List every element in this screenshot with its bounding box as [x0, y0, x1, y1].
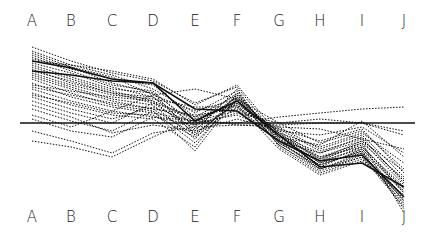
- top-label-g: G: [273, 12, 285, 30]
- bottom-label-a: A: [27, 208, 37, 226]
- top-label-c: C: [107, 12, 117, 30]
- series-line-s15: [32, 83, 404, 177]
- top-label-e: E: [190, 12, 199, 30]
- series-line-s25: [32, 123, 404, 153]
- bottom-axis-labels: ABCDEFGHIJ: [27, 208, 406, 226]
- top-label-i: I: [360, 12, 364, 30]
- bottom-label-g: G: [273, 208, 285, 226]
- bottom-label-h: H: [314, 208, 325, 226]
- bottom-label-b: B: [66, 208, 76, 226]
- series-line-s23: [32, 89, 404, 135]
- profile-chart: ABCDEFGHIJ ABCDEFGHIJ: [0, 0, 435, 244]
- bottom-label-i: I: [360, 208, 364, 226]
- series-line-s10: [32, 69, 404, 195]
- bottom-label-d: D: [147, 208, 159, 226]
- top-axis-labels: ABCDEFGHIJ: [27, 12, 406, 30]
- top-label-h: H: [314, 12, 325, 30]
- top-label-a: A: [27, 12, 37, 30]
- series-line-s21: [32, 105, 404, 173]
- top-label-d: D: [147, 12, 159, 30]
- bottom-label-c: C: [107, 208, 117, 226]
- bottom-label-e: E: [190, 208, 199, 226]
- bottom-label-j: J: [402, 208, 406, 226]
- series-line-s11: [32, 73, 404, 189]
- top-label-j: J: [402, 12, 406, 30]
- series-line-s14: [32, 79, 404, 207]
- series-line-s2: [32, 51, 404, 209]
- bottom-label-f: F: [233, 208, 242, 226]
- top-label-f: F: [233, 12, 242, 30]
- top-label-b: B: [66, 12, 76, 30]
